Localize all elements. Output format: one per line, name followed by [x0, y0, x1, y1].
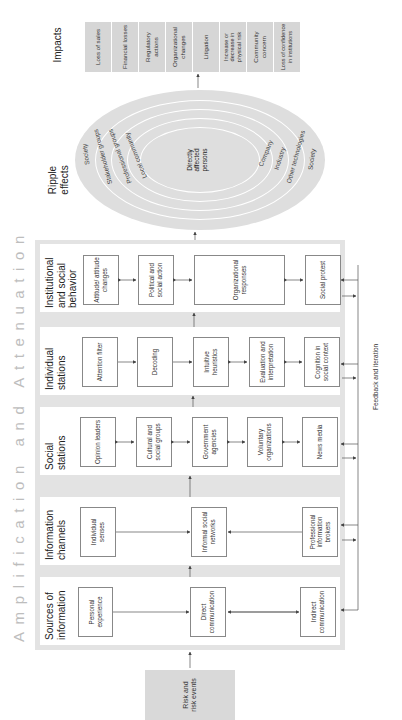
risk-amplification-diagram: Risk and risk events Amplification and A… [0, 0, 402, 720]
connector-lines [0, 0, 402, 720]
